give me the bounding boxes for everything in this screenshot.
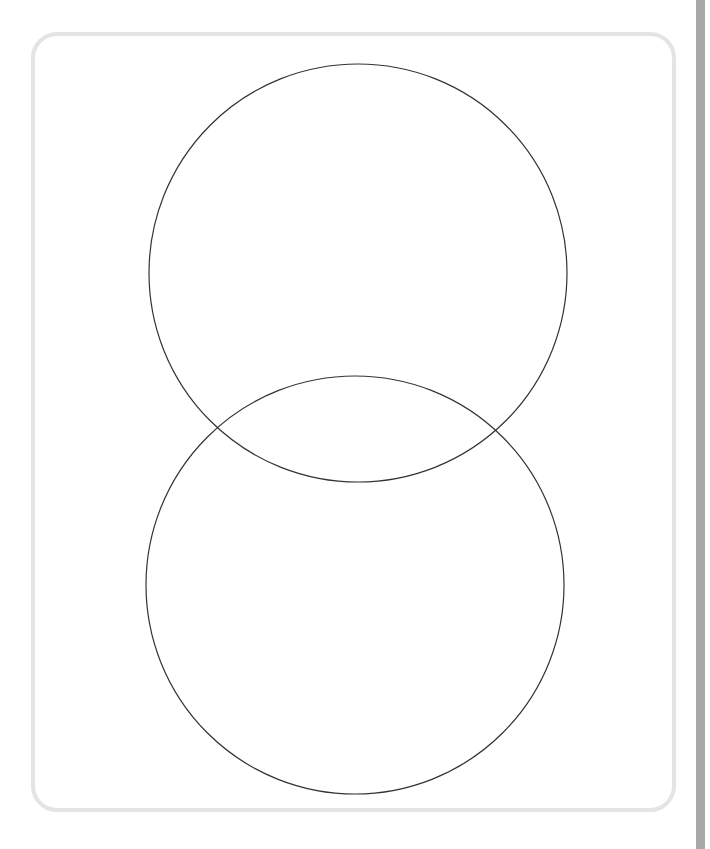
venn-circle-bottom bbox=[146, 376, 564, 794]
scrollbar[interactable] bbox=[696, 0, 705, 849]
venn-circle-top bbox=[149, 64, 567, 482]
venn-diagram bbox=[0, 0, 710, 849]
